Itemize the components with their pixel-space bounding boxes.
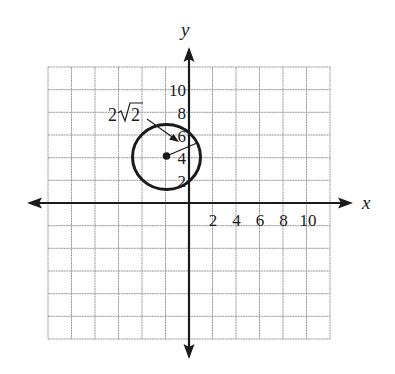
x-tick-label: 10: [300, 211, 317, 230]
y-tick-label: 10: [169, 81, 186, 100]
x-tick-label: 4: [232, 211, 241, 230]
radius-label-coefficient: 2: [108, 105, 117, 125]
x-tick-labels: 2 4 6 8 10: [209, 211, 317, 230]
y-tick-label: 8: [178, 104, 187, 123]
y-tick-label: 4: [178, 149, 187, 168]
radius-label-radicand: 2: [131, 105, 140, 125]
x-tick-label: 2: [209, 211, 218, 230]
x-axis-label: x: [361, 192, 371, 213]
x-tick-label: 8: [279, 211, 288, 230]
y-axis-label: y: [179, 19, 190, 40]
circle-graph: [133, 125, 201, 190]
x-tick-label: 6: [256, 211, 265, 230]
coordinate-plane-figure: x y 2 4 6 8 10 2 4 6 8 10 2 2: [0, 0, 395, 374]
